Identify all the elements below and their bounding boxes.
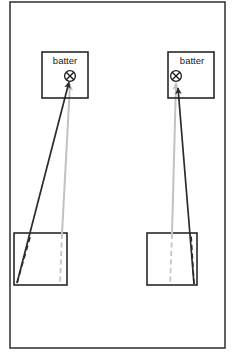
batter-box-left-label: batter: [53, 55, 77, 66]
dark-trajectory-arrow-right: [178, 88, 194, 284]
batter-box-right-label: batter: [180, 55, 204, 66]
diagram-svg: batter batter: [0, 0, 238, 361]
gray-dashed-segment-right: [170, 234, 172, 285]
source-rect-right: [147, 233, 197, 285]
gray-dashed-segment-left: [60, 234, 62, 285]
impact-marker-right: [171, 71, 182, 82]
gray-trajectory-arrow-right: [172, 83, 176, 234]
diagram-canvas: batter batter: [0, 0, 238, 361]
right-trajectory-panel: batter: [147, 52, 214, 285]
impact-marker-left: [65, 71, 76, 82]
left-trajectory-panel: batter: [14, 52, 88, 285]
source-rect-left: [14, 233, 67, 285]
